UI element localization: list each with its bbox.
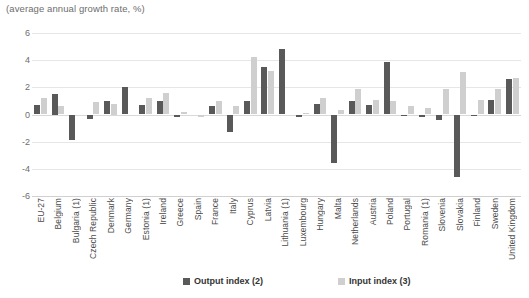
chart-legend: Output index (2) Input index (3) xyxy=(0,276,529,292)
bar-output[interactable] xyxy=(157,101,163,115)
bar-output[interactable] xyxy=(104,101,110,115)
bar-group xyxy=(486,33,503,196)
bar-input[interactable] xyxy=(268,71,274,114)
bar-output[interactable] xyxy=(296,115,302,117)
bar-group xyxy=(207,33,224,196)
bar-input[interactable] xyxy=(460,72,466,114)
x-axis-tick-label: Belgium xyxy=(53,198,63,229)
legend-item-input[interactable]: Input index (3) xyxy=(338,276,411,286)
bar-input[interactable] xyxy=(58,106,64,114)
legend-label-output: Output index (2) xyxy=(194,276,263,286)
legend-item-output[interactable]: Output index (2) xyxy=(183,276,263,286)
x-axis-tick-label: Lithuania (1) xyxy=(280,198,290,247)
bar-output[interactable] xyxy=(139,105,145,115)
bar-output[interactable] xyxy=(436,115,442,120)
bar-series-group xyxy=(32,33,521,196)
x-axis-tick-label: Ireland xyxy=(158,198,168,225)
bar-input[interactable] xyxy=(513,78,519,115)
bar-output[interactable] xyxy=(454,115,460,177)
bar-input[interactable] xyxy=(93,102,99,114)
bar-output[interactable] xyxy=(349,101,355,115)
bar-input[interactable] xyxy=(111,104,117,114)
bar-output[interactable] xyxy=(52,94,58,114)
bar-group xyxy=(189,33,206,196)
bar-output[interactable] xyxy=(279,49,285,114)
x-axis-labels: EU-27BelgiumBulgaria (1)Czech RepublicDe… xyxy=(32,198,521,264)
bar-group xyxy=(154,33,171,196)
bar-input[interactable] xyxy=(163,93,169,115)
bar-group xyxy=(434,33,451,196)
bar-output[interactable] xyxy=(244,101,250,115)
x-axis-tick-label: Latvia xyxy=(263,198,273,221)
bar-group xyxy=(346,33,363,196)
x-axis-tick-label: Poland xyxy=(385,198,395,225)
bar-output[interactable] xyxy=(419,115,425,118)
x-axis-tick-label: Finland xyxy=(472,198,482,227)
bar-group xyxy=(32,33,49,196)
bar-group xyxy=(504,33,521,196)
bar-output[interactable] xyxy=(366,105,372,115)
bar-output[interactable] xyxy=(384,62,390,115)
y-axis-tick-label: 0 xyxy=(4,110,30,120)
x-axis-tick-label: Romania (1) xyxy=(420,198,430,246)
bar-input[interactable] xyxy=(181,112,187,114)
bar-input[interactable] xyxy=(355,89,361,115)
bar-group xyxy=(381,33,398,196)
bar-group xyxy=(294,33,311,196)
x-axis-tick-label: Italy xyxy=(228,198,238,214)
bar-output[interactable] xyxy=(227,115,233,133)
x-axis-tick-label: Estonia (1) xyxy=(141,198,151,240)
x-axis-tick-label: Portugal xyxy=(402,198,412,230)
bar-input[interactable] xyxy=(443,89,449,115)
bar-input[interactable] xyxy=(320,98,326,114)
bar-group xyxy=(242,33,259,196)
x-axis-tick-label: Hungary xyxy=(315,198,325,231)
x-axis-tick-label: United Kingdom xyxy=(507,198,517,260)
bar-input[interactable] xyxy=(390,101,396,115)
x-axis-tick-label: Malta xyxy=(333,198,343,219)
bar-output[interactable] xyxy=(122,87,128,114)
bar-input[interactable] xyxy=(425,108,431,114)
bar-output[interactable] xyxy=(69,115,75,141)
y-axis-tick-label: 2 xyxy=(4,82,30,92)
bar-group xyxy=(277,33,294,196)
y-axis-tick-label: -4 xyxy=(4,164,30,174)
y-axis-tick-label: 4 xyxy=(4,55,30,65)
bar-group xyxy=(399,33,416,196)
bar-input[interactable] xyxy=(251,57,257,114)
bar-output[interactable] xyxy=(261,67,267,115)
bar-input[interactable] xyxy=(338,110,344,114)
legend-swatch-input-icon xyxy=(338,278,345,285)
bar-group xyxy=(137,33,154,196)
bar-group xyxy=(172,33,189,196)
bar-group xyxy=(416,33,433,196)
bar-group xyxy=(469,33,486,196)
bar-input[interactable] xyxy=(41,98,47,114)
bar-input[interactable] xyxy=(233,106,239,114)
bar-group xyxy=(49,33,66,196)
x-axis-tick-label: EU-27 xyxy=(36,198,46,223)
bar-input[interactable] xyxy=(373,100,379,115)
bar-group xyxy=(84,33,101,196)
bar-output[interactable] xyxy=(471,115,477,116)
plot-area xyxy=(32,33,521,196)
bar-input[interactable] xyxy=(495,89,501,115)
y-axis-tick-label: 6 xyxy=(4,28,30,38)
bar-output[interactable] xyxy=(174,115,180,117)
bar-input[interactable] xyxy=(198,115,204,117)
bar-input[interactable] xyxy=(478,100,484,115)
bar-input[interactable] xyxy=(216,101,222,115)
bar-output[interactable] xyxy=(34,105,40,115)
bar-output[interactable] xyxy=(401,115,407,116)
bar-input[interactable] xyxy=(408,106,414,114)
chart-container: (average annual growth rate, %) 6420-2-4… xyxy=(0,0,529,298)
bar-output[interactable] xyxy=(87,115,93,120)
bar-output[interactable] xyxy=(506,79,512,114)
bar-output[interactable] xyxy=(314,104,320,115)
bar-group xyxy=(451,33,468,196)
bar-output[interactable] xyxy=(488,100,494,115)
bar-output[interactable] xyxy=(209,106,215,114)
bar-input[interactable] xyxy=(146,98,152,114)
bar-output[interactable] xyxy=(331,115,337,164)
bar-input[interactable] xyxy=(303,113,309,114)
